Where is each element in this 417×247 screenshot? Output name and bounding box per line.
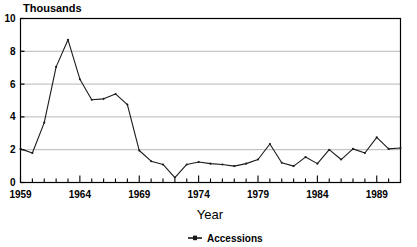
data-point (79, 78, 81, 80)
x-tick-label: 1984 (306, 189, 329, 200)
y-tick-label: 8 (10, 46, 16, 57)
data-point (55, 66, 57, 68)
line-chart-canvas: 0246810 1959196419691974197919841989 (0, 0, 417, 247)
data-point (364, 152, 366, 154)
data-point (162, 163, 164, 165)
x-tick-label: 1969 (128, 189, 151, 200)
data-point (43, 122, 45, 124)
data-point (293, 165, 295, 167)
series-line-accessions (21, 40, 401, 178)
data-point (388, 148, 390, 150)
data-series-group (19, 39, 401, 179)
data-point (376, 136, 378, 138)
data-point (174, 177, 176, 179)
x-tick-label: 1964 (69, 189, 92, 200)
data-point (233, 165, 235, 167)
x-tick-label: 1989 (366, 189, 389, 200)
data-point (352, 148, 354, 150)
data-point (126, 104, 128, 106)
data-point (91, 99, 93, 101)
data-point (31, 152, 33, 154)
data-point (114, 93, 116, 95)
chart-figure: 0246810 1959196419691974197919841989 Tho… (0, 0, 417, 247)
data-point (186, 163, 188, 165)
data-point (209, 163, 211, 165)
y-tick-label: 10 (4, 13, 16, 24)
x-tick-label: 1959 (9, 189, 32, 200)
data-point (138, 149, 140, 151)
data-point (340, 158, 342, 160)
y-tick-label: 2 (10, 144, 16, 155)
x-tick-label: 1979 (247, 189, 270, 200)
data-point (150, 160, 152, 162)
y-tick-label: 0 (10, 177, 16, 188)
data-point (245, 163, 247, 165)
data-point (316, 163, 318, 165)
gridlines-group (21, 19, 401, 150)
y-axis-tick-labels: 0246810 (4, 13, 16, 188)
data-point (281, 162, 283, 164)
data-point (399, 147, 401, 149)
y-tick-label: 6 (10, 79, 16, 90)
data-point (328, 149, 330, 151)
data-point (221, 163, 223, 165)
x-axis-ticks (21, 176, 401, 183)
data-point (269, 143, 271, 145)
data-point (19, 148, 21, 150)
data-point (257, 158, 259, 160)
data-point (103, 98, 105, 100)
x-axis-tick-labels: 1959196419691974197919841989 (9, 189, 388, 200)
data-point (67, 39, 69, 41)
data-point (304, 156, 306, 158)
x-tick-label: 1974 (188, 189, 211, 200)
y-tick-label: 4 (10, 111, 16, 122)
data-point (198, 161, 200, 163)
